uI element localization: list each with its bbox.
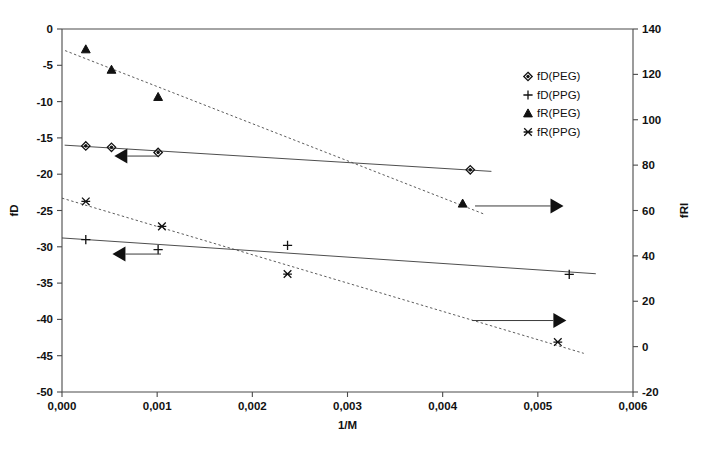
data-point-asterisk	[553, 338, 562, 346]
y2-axis-title: fRI	[678, 203, 690, 218]
legend-group: fD(PEG)fD(PPG)fR(PEG)fR(PPG)	[523, 70, 580, 138]
y2-axis-tick-label: 140	[642, 23, 661, 35]
chart-series	[62, 235, 596, 279]
y2-axis-tick-label: 100	[642, 114, 661, 126]
legend-entry: fD(PPG)	[523, 89, 580, 101]
right-arrow-upper	[475, 198, 564, 213]
y-axis-tick-label: -5	[43, 59, 54, 71]
data-point-center	[527, 75, 530, 78]
y-axis-tick-label: -30	[36, 241, 53, 253]
plot-frame	[62, 29, 633, 392]
data-point-triangle	[154, 92, 163, 100]
y2-axis-tick-label: 20	[642, 295, 655, 307]
chart-series	[65, 142, 492, 174]
data-point-triangle	[458, 199, 467, 207]
legend-label: fR(PEG)	[537, 107, 581, 119]
legend-entry: fD(PEG)	[524, 70, 581, 82]
legend-entry: fR(PPG)	[524, 126, 581, 138]
y-axis-tick-label: -15	[36, 132, 53, 144]
y2-axis-tick-label: 60	[642, 205, 655, 217]
y-axis-tick-label: -50	[36, 386, 53, 398]
y2-axis-tick-label: 80	[642, 159, 655, 171]
legend-entry: fR(PEG)	[524, 107, 581, 119]
legend-label: fD(PEG)	[537, 70, 581, 82]
arrow-head-icon	[551, 198, 564, 213]
x-axis-tick-label: 0,002	[238, 400, 267, 412]
data-point-triangle	[81, 45, 90, 53]
x-axis-tick-label: 0,005	[523, 400, 552, 412]
annotations-group	[112, 149, 566, 328]
y-axis-tick-label: -35	[36, 277, 53, 289]
data-point-plus	[81, 235, 90, 244]
data-point-asterisk	[283, 270, 292, 278]
y-axis-tick-label: -40	[36, 313, 53, 325]
data-point-plus	[154, 245, 163, 254]
y-axis-title: fD	[8, 204, 20, 216]
legend-label: fR(PPG)	[537, 126, 581, 138]
series-trend-line	[62, 198, 584, 353]
arrow-head-icon	[114, 149, 127, 164]
chart-series	[62, 198, 584, 354]
legend-label: fD(PPG)	[537, 89, 581, 101]
y2-axis-tick-label: -20	[642, 386, 659, 398]
data-point-triangle	[107, 65, 116, 73]
y2-axis-tick-label: 0	[642, 341, 648, 353]
right-arrow-lower	[472, 313, 566, 328]
y2-axis-tick-label: 40	[642, 250, 655, 262]
labels-group: 1/MfDfRI	[8, 203, 690, 431]
data-point-center	[469, 169, 472, 172]
x-axis-tick-label: 0,003	[333, 400, 362, 412]
chart-plot-svg: 0-5-10-15-20-25-30-35-40-45-501401201008…	[0, 0, 707, 461]
y2-axis-tick-label: 120	[642, 68, 661, 80]
x-axis-tick-label: 0,001	[143, 400, 172, 412]
y-axis-tick-label: 0	[47, 23, 53, 35]
x-axis-tick-label: 0,000	[48, 400, 77, 412]
x-axis-title: 1/M	[338, 419, 357, 431]
y-axis-tick-label: -20	[36, 168, 53, 180]
data-point-center	[157, 151, 160, 154]
data-point-plus	[283, 241, 292, 250]
x-axis-tick-label: 0,004	[428, 400, 457, 412]
series-trend-line	[65, 51, 483, 214]
data-point-asterisk	[524, 128, 533, 136]
series-trend-line	[65, 145, 492, 171]
series-trend-line	[62, 238, 596, 274]
arrow-head-icon	[112, 247, 125, 262]
data-point-plus	[523, 90, 532, 99]
left-arrow-lower	[112, 247, 161, 262]
data-point-center	[84, 145, 87, 148]
data-point-asterisk	[158, 223, 167, 231]
y-axis-tick-label: -10	[36, 96, 53, 108]
chart-figure: 0-5-10-15-20-25-30-35-40-45-501401201008…	[0, 0, 707, 461]
y-axis-tick-label: -25	[36, 205, 53, 217]
data-point-asterisk	[81, 198, 90, 206]
data-point-plus	[565, 270, 574, 279]
data-point-triangle	[524, 109, 533, 117]
arrow-head-icon	[553, 313, 566, 328]
y-axis-tick-label: -45	[36, 350, 53, 362]
chart-series	[65, 45, 483, 214]
series-group	[62, 45, 596, 354]
data-point-center	[110, 146, 113, 149]
x-axis-tick-label: 0,006	[619, 400, 648, 412]
